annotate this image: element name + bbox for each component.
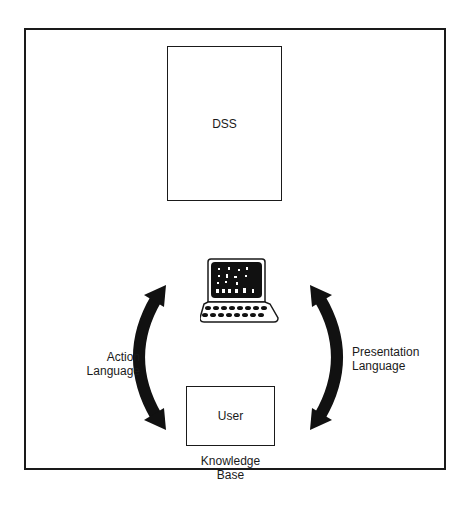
computer-terminal-icon — [200, 258, 300, 328]
user-label: User — [218, 409, 243, 423]
knowledge-base-label: Knowledge Base — [186, 454, 275, 482]
presentation-language-arrow-icon — [298, 285, 358, 430]
action-label-line2: Language — [70, 364, 140, 378]
presentation-language-label: Presentation Language — [352, 345, 432, 373]
user-box: User — [186, 386, 275, 446]
dss-box: DSS — [167, 46, 282, 201]
kb-label-line1: Knowledge — [186, 454, 275, 468]
kb-label-line2: Base — [186, 468, 275, 482]
presentation-label-line2: Language — [352, 359, 432, 373]
presentation-label-line1: Presentation — [352, 345, 432, 359]
action-language-label: Action Language — [70, 350, 140, 378]
action-label-line1: Action — [70, 350, 140, 364]
dss-label: DSS — [212, 117, 237, 131]
